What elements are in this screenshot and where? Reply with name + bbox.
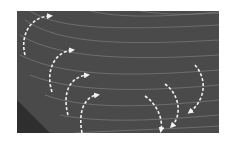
flow-arrow-6 bbox=[165, 84, 178, 126]
flow-diagram-panel bbox=[17, 11, 219, 133]
flow-arrow-3 bbox=[66, 75, 87, 115]
corner-shadow bbox=[17, 100, 50, 133]
flow-diagram bbox=[17, 11, 219, 133]
flow-arrow-2 bbox=[50, 50, 72, 92]
flow-arrow-7 bbox=[145, 96, 161, 130]
flow-arrows bbox=[24, 16, 203, 133]
flow-arrow-4 bbox=[81, 95, 97, 133]
